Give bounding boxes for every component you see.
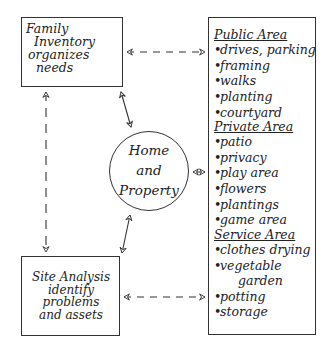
node-text-line: Home bbox=[110, 140, 188, 160]
list-item: •potting bbox=[214, 289, 313, 305]
node-text-line: needs bbox=[26, 61, 118, 74]
home-property-node: Home and Property bbox=[109, 131, 189, 211]
edge-family-home bbox=[121, 92, 131, 127]
list-item: •clothes drying bbox=[214, 242, 313, 258]
family-inventory-node: Family Inventory organizes needs bbox=[21, 17, 123, 87]
service-area-section: Service Area •clothes drying •vegetable … bbox=[214, 228, 313, 320]
list-item: •vegetable bbox=[214, 258, 313, 274]
private-area-section: Private Area •patio •privacy •play area … bbox=[214, 120, 313, 228]
site-analysis-node: Site Analysis identify problems and asse… bbox=[21, 256, 120, 336]
list-item: •drives, parking bbox=[214, 42, 313, 58]
list-item: •game area bbox=[214, 212, 313, 228]
public-area-section: Public Area •drives, parking •framing •w… bbox=[214, 28, 313, 120]
node-text-line: and bbox=[110, 160, 188, 180]
service-area-heading: Service Area bbox=[214, 228, 313, 241]
node-text-line: Property bbox=[110, 180, 188, 200]
list-item: •framing bbox=[214, 58, 313, 74]
areas-node: Public Area •drives, parking •framing •w… bbox=[208, 17, 316, 335]
list-item: •planting bbox=[214, 89, 313, 105]
public-area-heading: Public Area bbox=[214, 28, 313, 41]
edge-home-site bbox=[122, 215, 130, 253]
node-text-line: and assets bbox=[25, 309, 117, 322]
list-item: •privacy bbox=[214, 150, 313, 166]
private-area-heading: Private Area bbox=[214, 120, 313, 133]
list-item: •play area bbox=[214, 165, 313, 181]
list-item: •courtyard bbox=[214, 105, 313, 121]
list-item: •patio bbox=[214, 134, 313, 150]
node-text-line: Site Analysis bbox=[25, 271, 117, 284]
list-item: •flowers bbox=[214, 181, 313, 197]
list-item-continuation: garden bbox=[214, 273, 313, 289]
list-item: •walks bbox=[214, 73, 313, 89]
list-item: •storage bbox=[214, 304, 313, 320]
node-text-line: problems bbox=[25, 296, 117, 309]
list-item: •plantings bbox=[214, 197, 313, 213]
